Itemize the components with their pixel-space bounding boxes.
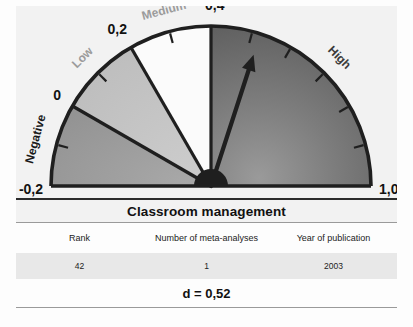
column-header-number-of-meta-analyses: Number of meta-analyses	[143, 233, 270, 243]
gauge-zone-label-low: Low	[69, 44, 96, 71]
column-header-year-of-publication: Year of publication	[270, 233, 397, 243]
gauge-zone-label-negative: Negative	[22, 113, 49, 165]
figure-root: NegativeLowMediumHigh -0,200,20,41,0 Cla…	[0, 0, 413, 327]
gauge-zone-label-high: High	[325, 43, 354, 72]
effect-size-value: d = 0,52	[182, 286, 230, 301]
result-table: Classroom management Rank Number of meta…	[16, 198, 397, 322]
gauge-scale-label: 0	[53, 87, 61, 103]
table-bottom-rule	[16, 307, 397, 308]
cell-number-of-meta-analyses: 1	[143, 261, 270, 271]
column-header-rank: Rank	[16, 233, 143, 243]
table-row: 42 1 2003	[16, 253, 397, 279]
gauge-scale-label: 0,2	[108, 21, 128, 37]
table-header-row: Rank Number of meta-analyses Year of pub…	[16, 223, 397, 253]
table-title-row: Classroom management	[16, 200, 397, 222]
gauge-scale-label: 0,4	[205, 6, 225, 13]
gauge-scale-label: -0,2	[19, 181, 43, 197]
cell-rank: 42	[16, 261, 143, 271]
gauge-chart: NegativeLowMediumHigh -0,200,20,41,0	[16, 6, 397, 198]
gauge-zone-label-medium: Medium	[140, 6, 187, 23]
gauge-panel: NegativeLowMediumHigh -0,200,20,41,0	[16, 6, 397, 198]
cell-year-of-publication: 2003	[270, 261, 397, 271]
effect-size-row: d = 0,52	[16, 279, 397, 307]
gauge-scale-label: 1,0	[379, 181, 397, 197]
table-title: Classroom management	[127, 204, 286, 219]
